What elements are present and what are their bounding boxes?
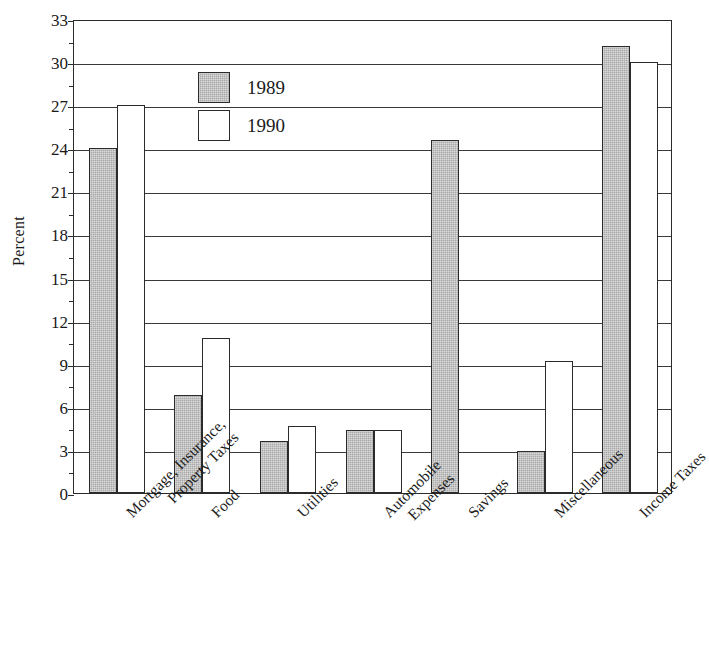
bar-1989-4 <box>431 140 459 493</box>
y-tick-label: 9 <box>34 356 68 373</box>
bar-1990-6 <box>630 62 658 493</box>
legend: 1989 1990 <box>198 68 338 144</box>
legend-entry-1990: 1990 <box>198 106 338 144</box>
legend-label-1990: 1990 <box>247 116 285 135</box>
y-tick-label: 30 <box>34 55 68 72</box>
y-tick-label: 21 <box>34 184 68 201</box>
bar-1989-5 <box>517 451 545 493</box>
bar-1989-2 <box>260 441 288 493</box>
legend-label-1989: 1989 <box>247 78 285 97</box>
bar-1990-2 <box>288 426 316 494</box>
bar-series-group <box>74 21 671 493</box>
bar-1990-3 <box>374 430 402 493</box>
plot-area <box>73 20 672 494</box>
bar-1990-0 <box>117 105 145 493</box>
x-axis-category-labels: Mortgage, Insurance,Property TaxesFoodUt… <box>0 494 699 666</box>
y-tick-label: 18 <box>34 227 68 244</box>
y-tick-label: 12 <box>34 313 68 330</box>
y-tick-label: 24 <box>34 141 68 158</box>
y-tick-label: 3 <box>34 442 68 459</box>
y-tick-label: 27 <box>34 98 68 115</box>
legend-swatch-1990 <box>198 110 230 141</box>
y-tick-label: 6 <box>34 399 68 416</box>
bar-1990-5 <box>545 361 573 493</box>
legend-entry-1989: 1989 <box>198 68 338 106</box>
y-axis-title: Percent <box>10 196 28 286</box>
bar-1989-3 <box>346 430 374 493</box>
y-tick-label: 15 <box>34 270 68 287</box>
bar-1989-0 <box>89 148 117 493</box>
bar-1989-6 <box>602 46 630 493</box>
y-tick-label: 33 <box>34 12 68 29</box>
legend-swatch-1989 <box>198 72 230 103</box>
